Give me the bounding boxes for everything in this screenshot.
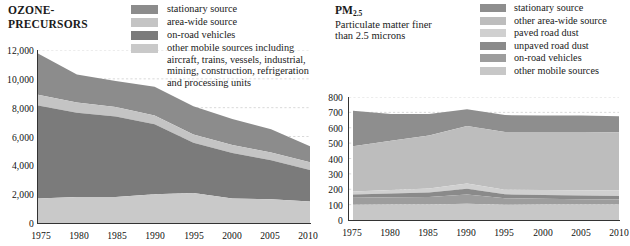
ozone-plot-area <box>38 50 310 223</box>
ozone-xtick-1995: 1995 <box>184 230 204 241</box>
legend-item-pm-on-road-vehicles[interactable]: on-road vehicles <box>480 52 630 63</box>
pm-xtick-1975: 1975 <box>342 227 362 238</box>
pm-xtick-1995: 1995 <box>494 227 514 238</box>
pm25-panel: PM2.5 Particulate matter finer than 2.5 … <box>335 0 630 246</box>
pm-ytick-0: 0 <box>313 215 343 226</box>
legend-swatch-area-wide-source <box>131 18 158 27</box>
legend-label-pm-other-area-wide-source: other area-wide source <box>514 15 607 26</box>
pm-ytick-700: 700 <box>313 107 343 118</box>
pm-ytick-500: 500 <box>313 138 343 149</box>
ozone-area-chart <box>38 50 310 223</box>
pm-x-axis-line <box>348 220 620 221</box>
ozone-ytick-10000: 10,000 <box>0 73 34 84</box>
legend-item-pm-unpaved-road-dust[interactable]: unpaved road dust <box>480 40 630 51</box>
legend-item-on-road-vehicles[interactable]: on-road vehicles <box>131 29 336 41</box>
pm25-area-chart <box>349 97 619 220</box>
pm25-title-subscript: 2.5 <box>353 9 362 18</box>
legend-item-pm-paved-road-dust[interactable]: paved road dust <box>480 27 630 38</box>
legend-swatch-pm-on-road-vehicles <box>480 54 506 62</box>
legend-label-pm-on-road-vehicles: on-road vehicles <box>514 52 582 63</box>
legend-label-stationary-source: stationary source <box>167 3 237 15</box>
ozone-xtick-2005: 2005 <box>260 230 280 241</box>
pm-xtick-2000: 2000 <box>533 227 553 238</box>
pm-xtick-1990: 1990 <box>456 227 476 238</box>
pm-xtick-2010: 2010 <box>609 227 629 238</box>
pm25-plot-area <box>349 97 619 220</box>
legend-item-pm-other-mobile-sources[interactable]: other mobile sources <box>480 65 630 76</box>
ozone-ytick-0: 0 <box>0 218 34 229</box>
ozone-ytick-4000: 4,000 <box>0 160 34 171</box>
ozone-ytick-6000: 6,000 <box>0 131 34 142</box>
ozone-ytick-8000: 8,000 <box>0 102 34 113</box>
ozone-x-axis-line <box>37 223 311 224</box>
legend-item-pm-stationary-source[interactable]: stationary source <box>480 2 630 13</box>
legend-swatch-pm-paved-road-dust <box>480 29 506 37</box>
pm-xtick-1985: 1985 <box>418 227 438 238</box>
ozone-xtick-1975: 1975 <box>31 230 51 241</box>
ozone-xtick-2010: 2010 <box>298 230 318 241</box>
pm25-title-text: PM <box>335 4 353 16</box>
legend-label-pm-other-mobile-sources: other mobile sources <box>514 65 599 76</box>
pm-ytick-400: 400 <box>313 153 343 164</box>
legend-swatch-on-road-vehicles <box>131 31 158 40</box>
ozone-xtick-1980: 1980 <box>69 230 89 241</box>
pm25-legend: stationary source other area-wide source… <box>480 2 630 78</box>
legend-label-on-road-vehicles: on-road vehicles <box>167 29 235 41</box>
pm-y-axis-line <box>348 97 349 221</box>
pm-xtick-2005: 2005 <box>571 227 591 238</box>
ozone-xtick-2000: 2000 <box>222 230 242 241</box>
pm25-band-other-mobile-sources <box>353 204 619 220</box>
legend-label-area-wide-source: area-wide source <box>167 16 237 28</box>
legend-swatch-pm-stationary-source <box>480 4 506 12</box>
pm25-chart-title: PM2.5 <box>335 4 362 19</box>
legend-item-stationary-source[interactable]: stationary source <box>131 3 336 15</box>
pm-ytick-300: 300 <box>313 168 343 179</box>
pm-ytick-100: 100 <box>313 199 343 210</box>
legend-label-pm-unpaved-road-dust: unpaved road dust <box>514 40 589 51</box>
legend-label-pm-paved-road-dust: paved road dust <box>514 27 579 38</box>
pm-xtick-1980: 1980 <box>380 227 400 238</box>
ozone-y-axis-line <box>37 50 38 224</box>
ozone-precursors-panel: OZONE- PRECURSORS stationary source area… <box>0 0 340 246</box>
pm25-chart-subtitle: Particulate matter finer than 2.5 micron… <box>335 19 485 43</box>
legend-label-pm-stationary-source: stationary source <box>514 2 583 13</box>
ozone-ytick-12000: 12,000 <box>0 45 34 56</box>
legend-swatch-pm-other-area-wide-source <box>480 17 506 25</box>
ozone-chart-title: OZONE- PRECURSORS <box>8 4 128 31</box>
ozone-ytick-2000: 2,000 <box>0 189 34 200</box>
legend-item-area-wide-source[interactable]: area-wide source <box>131 16 336 28</box>
pm25-title-block: PM2.5 Particulate matter finer than 2.5 … <box>335 0 485 42</box>
pm-ytick-800: 800 <box>313 92 343 103</box>
legend-swatch-pm-other-mobile-sources <box>480 67 506 75</box>
legend-swatch-pm-unpaved-road-dust <box>480 42 506 50</box>
pm-ytick-600: 600 <box>313 122 343 133</box>
legend-item-pm-other-area-wide-source[interactable]: other area-wide source <box>480 15 630 26</box>
ozone-xtick-1990: 1990 <box>145 230 165 241</box>
legend-swatch-stationary-source <box>131 5 158 14</box>
pm-ytick-200: 200 <box>313 184 343 195</box>
ozone-xtick-1985: 1985 <box>107 230 127 241</box>
